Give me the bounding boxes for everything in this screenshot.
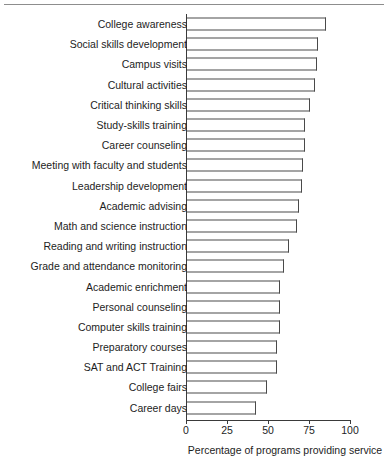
category-label: Academic advising (99, 201, 187, 212)
category-label: Social skills development (70, 39, 187, 50)
bar-row: SAT and ACT Training (0, 357, 388, 377)
bar-rows: College awarenessSocial skills developme… (0, 14, 388, 418)
category-label: Math and science instruction (54, 221, 187, 232)
x-tick-label: 50 (262, 425, 274, 436)
bar (187, 18, 326, 31)
bar-row: College fairs (0, 377, 388, 397)
bar (187, 381, 267, 394)
bar (187, 119, 305, 132)
category-label: Computer skills training (78, 322, 187, 333)
category-label: College fairs (129, 382, 187, 393)
category-label: Grade and attendance monitoring (31, 261, 187, 272)
bar-row: College awareness (0, 14, 388, 34)
category-label: Leadership development (72, 180, 187, 191)
bar (187, 219, 297, 232)
bar-row: Critical thinking skills (0, 95, 388, 115)
category-label: Career days (130, 402, 187, 413)
bar (187, 58, 317, 71)
bar-row: Career days (0, 398, 388, 418)
x-tick-label: 0 (183, 425, 189, 436)
bar-row: Reading and writing instruction (0, 236, 388, 256)
bar-row: Campus visits (0, 54, 388, 74)
category-label: Personal counseling (92, 301, 187, 312)
bar (187, 179, 302, 192)
bar-row: Grade and attendance monitoring (0, 256, 388, 276)
bar-row: Computer skills training (0, 317, 388, 337)
x-axis-ticks: 0255075100 (0, 421, 388, 437)
bar (187, 38, 318, 51)
bar (187, 78, 315, 91)
bar (187, 199, 299, 212)
bar (187, 300, 280, 313)
bar-row: Academic enrichment (0, 276, 388, 296)
bar-row: Math and science instruction (0, 216, 388, 236)
x-tick-label: 25 (221, 425, 233, 436)
bar (187, 260, 284, 273)
bar (187, 139, 305, 152)
category-label: Meeting with faculty and students (32, 160, 187, 171)
bar-row: Social skills development (0, 34, 388, 54)
bar-row: Career counseling (0, 135, 388, 155)
bar-row: Personal counseling (0, 297, 388, 317)
category-label: Career counseling (102, 140, 187, 151)
plot-area: College awarenessSocial skills developme… (0, 0, 388, 469)
bar-row: Preparatory courses (0, 337, 388, 357)
x-tick-label: 75 (303, 425, 315, 436)
bar (187, 98, 310, 111)
category-label: Campus visits (122, 59, 187, 70)
category-label: Critical thinking skills (90, 100, 187, 111)
bar (187, 280, 280, 293)
category-label: College awareness (98, 19, 187, 30)
bar-row: Meeting with faculty and students (0, 155, 388, 175)
bar-row: Study-skills training (0, 115, 388, 135)
bar (187, 240, 289, 253)
category-label: Preparatory courses (92, 342, 187, 353)
category-label: Reading and writing instruction (43, 241, 187, 252)
x-axis-title: Percentage of programs providing service (186, 445, 384, 456)
category-label: Academic enrichment (86, 281, 187, 292)
x-tick-label: 100 (341, 425, 359, 436)
bar (187, 401, 256, 414)
bar-row: Academic advising (0, 196, 388, 216)
bar (187, 320, 280, 333)
category-label: SAT and ACT Training (84, 362, 187, 373)
bar (187, 361, 277, 374)
bar-row: Cultural activities (0, 75, 388, 95)
category-label: Cultural activities (108, 79, 187, 90)
bar (187, 159, 303, 172)
bar (187, 341, 277, 354)
bar-chart: College awarenessSocial skills developme… (0, 0, 388, 469)
category-label: Study-skills training (97, 120, 187, 131)
bar-row: Leadership development (0, 176, 388, 196)
